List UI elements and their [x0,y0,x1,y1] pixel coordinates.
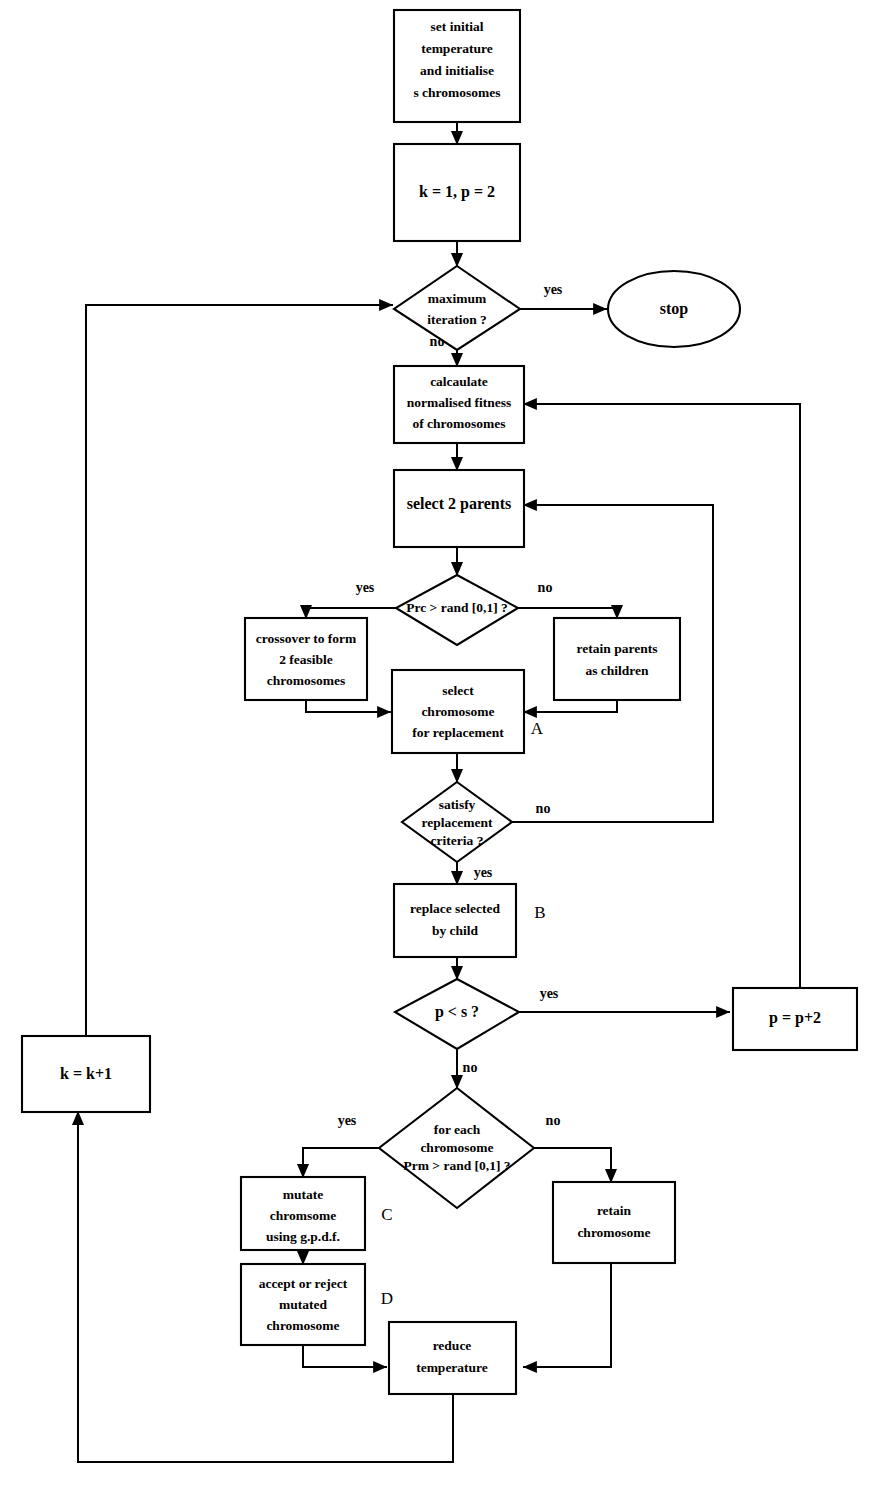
node-crossover-test-decision[interactable]: Prc > rand [0,1] ? [396,575,518,645]
node-label-line: replacement [422,815,493,830]
node-mutate-chromosome[interactable]: mutate chromsome using g.p.d.f. [241,1177,365,1250]
node-set-initial-temperature[interactable]: set initial temperature and initialise s… [394,10,520,122]
node-mutation-test-decision[interactable]: for each chromosome Prm > rand [0,1] ? [379,1088,534,1208]
node-label-line: k = 1, p = 2 [419,183,495,201]
node-label-line: retain parents [577,641,658,656]
node-replace-selected-by-child[interactable]: replace selected by child [394,884,516,957]
node-increment-k[interactable]: k = k+1 [22,1036,150,1112]
node-label-line: maximum [428,291,487,306]
edge-label-mutation-yes: yes [338,1113,357,1128]
tag-label-b: B [534,903,545,922]
node-label-line: criteria ? [431,833,484,848]
node-shape-rect [554,618,680,700]
node-shape-rect [553,1182,675,1263]
node-label-line: crossover to form [256,631,357,646]
node-replacement-test-decision[interactable]: satisfy replacement criteria ? [402,782,512,862]
node-label-line: retain [597,1203,632,1218]
node-crossover[interactable]: crossover to form 2 feasible chromosomes [245,618,367,700]
conn-retainchrom-to-reduce [524,1263,611,1367]
node-stop-terminator[interactable]: stop [608,271,740,347]
node-label-line: chromosome [577,1225,650,1240]
node-shape-diamond [394,266,520,350]
node-label-line: satisfy [439,797,476,812]
node-label-line: of chromosomes [412,416,505,431]
edge-label-pop-test-no: no [463,1060,478,1075]
node-label-line: chromosomes [267,673,346,688]
conn-crossovertest-no-to-retain [518,608,617,618]
node-label-line: stop [660,300,689,318]
node-label-line: p = p+2 [769,1009,821,1027]
node-retain-parents[interactable]: retain parents as children [554,618,680,700]
edge-label-replacement-yes: yes [474,865,493,880]
node-label-line: chromosome [266,1318,339,1333]
node-label-line: select [442,683,474,698]
node-retain-chromosome[interactable]: retain chromosome [553,1182,675,1263]
edge-label-replacement-no: no [536,801,551,816]
edge-label-pop-test-yes: yes [540,986,559,1001]
node-label-line: chromosome [421,704,494,719]
node-increment-p[interactable]: p = p+2 [733,988,857,1050]
node-shape-rect [389,1322,516,1394]
node-reduce-temperature[interactable]: reduce temperature [389,1322,516,1394]
node-label-line: temperature [421,41,493,56]
edge-label-max-iteration-no: no [430,334,445,349]
edge-label-crossover-no: no [538,580,553,595]
node-label-line: temperature [416,1360,488,1375]
node-label-line: Prc > rand [0,1] ? [406,600,508,615]
tag-label-d: D [381,1289,393,1308]
node-label-line: and initialise [420,63,494,78]
node-calculate-fitness[interactable]: calcaulate normalised fitness of chromos… [394,366,524,443]
node-label-line: select 2 parents [407,495,512,513]
node-label-line: by child [432,923,479,938]
conn-mutationtest-no-to-retainchrom [534,1148,611,1182]
node-population-test-decision[interactable]: p < s ? [395,979,519,1049]
tag-label-c: C [381,1205,392,1224]
node-label-line: chromsome [270,1208,337,1223]
node-select-chromosome-for-replacement[interactable]: select chromosome for replacement [392,670,524,753]
node-label-line: set initial [431,19,484,34]
node-label-line: p < s ? [435,1003,479,1021]
tag-label-a: A [531,719,544,738]
node-label-line: k = k+1 [60,1065,112,1082]
node-label-line: 2 feasible [279,652,333,667]
edge-label-crossover-yes: yes [356,580,375,595]
node-label-line: mutated [279,1297,327,1312]
conn-mutationtest-yes-to-mutate [303,1148,379,1177]
node-label-line: Prm > rand [0,1] ? [403,1158,510,1173]
node-label-line: reduce [433,1338,472,1353]
node-label-line: mutate [283,1187,324,1202]
conn-crossovertest-yes-to-crossover [306,608,396,618]
node-max-iteration-decision[interactable]: maximum iteration ? [394,266,520,350]
node-accept-or-reject[interactable]: accept or reject mutated chromosome [241,1264,365,1345]
node-init-counters[interactable]: k = 1, p = 2 [394,144,520,241]
edge-label-max-iteration-yes: yes [544,282,563,297]
node-label-line: normalised fitness [407,395,512,410]
node-label-line: chromosome [420,1140,493,1155]
conn-acceptreject-to-reduce [303,1345,386,1367]
node-label-line: using g.p.d.f. [266,1229,340,1244]
node-select-parents[interactable]: select 2 parents [394,470,524,547]
node-shape-rect [394,884,516,957]
node-label-line: as children [585,663,649,678]
flowchart-canvas: set initial temperature and initialise s… [0,0,874,1497]
node-label-line: for replacement [412,725,504,740]
node-label-line: for each [434,1122,481,1137]
conn-retain-to-selectreplace [524,700,617,712]
edge-label-mutation-no: no [546,1113,561,1128]
conn-crossover-to-selectreplace [306,700,390,712]
node-label-line: accept or reject [259,1276,348,1291]
node-label-line: replace selected [410,901,501,916]
node-label-line: s chromosomes [413,85,500,100]
node-label-line: iteration ? [427,312,487,327]
node-label-line: calcaulate [430,374,488,389]
